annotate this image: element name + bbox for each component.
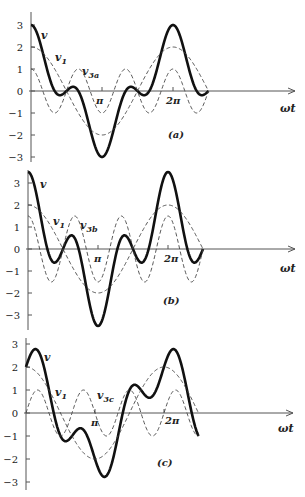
y-tick-label: −3: [8, 152, 23, 163]
y-tick-label: 3: [14, 178, 20, 189]
y-tick-label: −3: [5, 310, 20, 321]
panel-c: 3210−1−2−3vv1v3cπ2πωt(c): [3, 338, 293, 490]
panel-caption: (c): [157, 457, 173, 468]
y-tick-label: 1: [17, 64, 23, 75]
y-tick-label: 2: [12, 362, 18, 373]
label-v: v: [41, 29, 48, 42]
y-tick-label: −2: [5, 288, 20, 299]
y-tick-label: −1: [3, 431, 18, 442]
y-tick-label: 3: [17, 20, 23, 31]
label-v1: v1: [55, 51, 67, 66]
x-tick-label-pi: π: [90, 417, 99, 428]
y-tick-label: −3: [3, 477, 18, 488]
x-tick-label-2pi: 2π: [164, 415, 180, 426]
x-tick-label-2pi: 2π: [163, 253, 179, 264]
harmonic-waveform-figure: 3210−1−2−3vv1v3aπ2πωt(a)3210−1−2−3vv1v3b…: [0, 0, 305, 497]
x-tick-label-2pi: 2π: [165, 95, 181, 106]
y-tick-label: −2: [3, 454, 18, 465]
y-tick-label: 0: [12, 408, 18, 419]
label-v1: v1: [55, 386, 67, 401]
y-tick-label: 0: [14, 244, 20, 255]
label-v3c: v3c: [97, 389, 114, 404]
y-tick-label: −2: [8, 130, 23, 141]
y-tick-label: −1: [5, 266, 20, 277]
label-v: v: [44, 351, 51, 364]
y-tick-label: 3: [12, 339, 18, 350]
y-tick-label: 0: [17, 86, 23, 97]
y-tick-label: 2: [14, 200, 20, 211]
y-tick-label: −1: [8, 108, 23, 119]
panel-b: 3210−1−2−3vv1v3bπ2πωt(b): [5, 170, 295, 330]
panel-caption: (a): [168, 129, 184, 140]
x-tick-label-pi: π: [95, 95, 104, 106]
x-axis-label: ωt: [280, 102, 296, 115]
panel-a: 3210−1−2−3vv1v3aπ2πωt(a): [8, 12, 295, 163]
panel-caption: (b): [163, 295, 180, 306]
y-tick-label: 1: [12, 385, 18, 396]
y-tick-label: 1: [14, 222, 20, 233]
x-axis-label: ωt: [278, 422, 294, 435]
label-v1: v1: [53, 215, 65, 230]
label-v: v: [40, 178, 47, 191]
x-tick-label-pi: π: [93, 253, 102, 264]
y-tick-label: 2: [17, 42, 23, 53]
x-axis-label: ωt: [280, 262, 296, 275]
label-v3b: v3b: [80, 219, 98, 234]
label-v3a: v3a: [82, 65, 99, 80]
